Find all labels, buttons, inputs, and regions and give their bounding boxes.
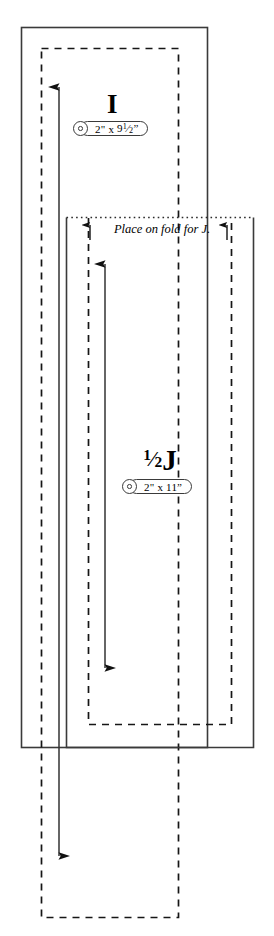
piece-j-dimension-height: 11” bbox=[166, 481, 182, 493]
cutting-layout-diagram: I 2" x 91⁄2” Place on fold for J. 1⁄2J 2… bbox=[0, 0, 274, 936]
piece-i-dimension-badge: 2" x 91⁄2” bbox=[73, 120, 148, 137]
piece-j-inch-mark: ” bbox=[177, 481, 182, 493]
fold-instruction-note: Place on fold for J. bbox=[92, 222, 232, 237]
piece-j-fraction: 1⁄2 bbox=[143, 447, 162, 471]
piece-j-dimension-height-whole: 11 bbox=[166, 481, 177, 493]
grommet-icon bbox=[122, 479, 137, 494]
piece-j-fraction-numerator: 1 bbox=[143, 446, 151, 463]
piece-j-dimension-width: 2" bbox=[144, 481, 154, 493]
piece-i-dimension-width: 2" bbox=[95, 123, 105, 135]
piece-j-dimension-pill: 2" x 11” bbox=[129, 479, 192, 494]
piece-i-inch-mark: ” bbox=[133, 122, 138, 134]
grommet-icon bbox=[73, 121, 88, 136]
piece-j-letter-base: J bbox=[162, 444, 177, 476]
piece-j-dimension-separator: x bbox=[154, 481, 166, 493]
piece-i-dimension-pill: 2" x 91⁄2” bbox=[80, 121, 148, 136]
piece-j-letter: 1⁄2J bbox=[66, 446, 254, 475]
piece-i-dimension-height: 91⁄2” bbox=[117, 122, 138, 135]
piece-i-letter: I bbox=[0, 91, 225, 118]
piece-j-dimension-badge: 2" x 11” bbox=[122, 478, 192, 495]
piece-i-dimension-separator: x bbox=[105, 123, 117, 135]
